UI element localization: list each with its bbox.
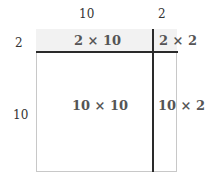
top-label-10: 10 (79, 8, 94, 20)
top-label-2: 2 (158, 8, 166, 20)
cell-bottom-right: 10 × 2 (158, 99, 205, 112)
vertical-divider (152, 29, 154, 172)
cell-top-right: 2 × 2 (159, 34, 197, 47)
cell-top-left: 2 × 10 (74, 34, 121, 47)
side-label-10: 10 (13, 109, 28, 121)
horizontal-divider (36, 51, 178, 53)
cell-bottom-left: 10 × 10 (72, 99, 128, 112)
side-label-2: 2 (15, 37, 23, 49)
